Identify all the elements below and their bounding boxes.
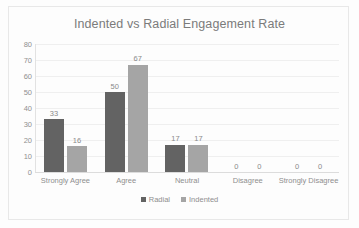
- bar[interactable]: [105, 92, 125, 172]
- bar-wrapper: 0: [287, 44, 307, 172]
- bar[interactable]: [165, 145, 185, 172]
- legend-swatch-icon: [141, 197, 146, 202]
- bar[interactable]: [188, 145, 208, 172]
- bar-value-label: 0: [318, 163, 322, 171]
- bar-group: 00: [217, 44, 278, 172]
- bar-value-label: 0: [295, 163, 299, 171]
- bar-wrapper: 50: [105, 44, 125, 172]
- bar-wrapper: 67: [128, 44, 148, 172]
- chart-container: Indented vs Radial Engagement Rate 80706…: [0, 0, 359, 228]
- legend-swatch-icon: [181, 197, 186, 202]
- x-axis-tick-label: Disagree: [217, 176, 278, 185]
- bar-group: 5067: [96, 44, 157, 172]
- bar-wrapper: 0: [249, 44, 269, 172]
- chart-title: Indented vs Radial Engagement Rate: [0, 17, 359, 31]
- bar-value-label: 67: [134, 55, 142, 63]
- bar-value-label: 16: [73, 137, 81, 145]
- legend-label: Radial: [149, 195, 170, 204]
- x-axis-tick-label: Neutral: [157, 176, 218, 185]
- bar-wrapper: 0: [310, 44, 330, 172]
- bar-value-label: 50: [111, 83, 119, 91]
- x-axis-tick-label: Strongly Agree: [35, 176, 96, 185]
- bar-wrapper: 0: [226, 44, 246, 172]
- bar-value-label: 17: [194, 135, 202, 143]
- y-axis-tick-label: 0: [6, 168, 32, 177]
- x-axis-line: [35, 172, 339, 173]
- y-axis-tick-label: 80: [6, 40, 32, 49]
- y-axis-tick-label: 50: [6, 88, 32, 97]
- y-axis-tick-label: 60: [6, 72, 32, 81]
- bar[interactable]: [67, 146, 87, 172]
- y-axis-tick-label: 40: [6, 104, 32, 113]
- x-axis-tick-label: Strongly Disagree: [278, 176, 339, 185]
- bar-wrapper: 17: [188, 44, 208, 172]
- bar-value-label: 17: [171, 135, 179, 143]
- legend-item[interactable]: Radial: [141, 195, 170, 204]
- legend-label: Indented: [189, 195, 218, 204]
- bar-groups: 3316506717170000: [35, 44, 339, 172]
- bar[interactable]: [128, 65, 148, 172]
- x-axis-labels: Strongly AgreeAgreeNeutralDisagreeStrong…: [35, 176, 339, 185]
- bar-value-label: 0: [234, 163, 238, 171]
- bar-group: 3316: [35, 44, 96, 172]
- y-axis-tick-label: 10: [6, 152, 32, 161]
- chart-legend: RadialIndented: [0, 195, 359, 204]
- y-axis-tick-label: 70: [6, 56, 32, 65]
- bar-wrapper: 33: [44, 44, 64, 172]
- y-axis-tick-label: 30: [6, 120, 32, 129]
- bar-value-label: 0: [257, 163, 261, 171]
- legend-item[interactable]: Indented: [181, 195, 218, 204]
- bar-wrapper: 17: [165, 44, 185, 172]
- bar-value-label: 33: [50, 110, 58, 118]
- bar-wrapper: 16: [67, 44, 87, 172]
- x-axis-tick-label: Agree: [96, 176, 157, 185]
- bar[interactable]: [44, 119, 64, 172]
- bar-group: 1717: [157, 44, 218, 172]
- y-axis-labels: 80706050403020100: [2, 44, 32, 172]
- y-axis-tick-label: 20: [6, 136, 32, 145]
- bar-group: 00: [278, 44, 339, 172]
